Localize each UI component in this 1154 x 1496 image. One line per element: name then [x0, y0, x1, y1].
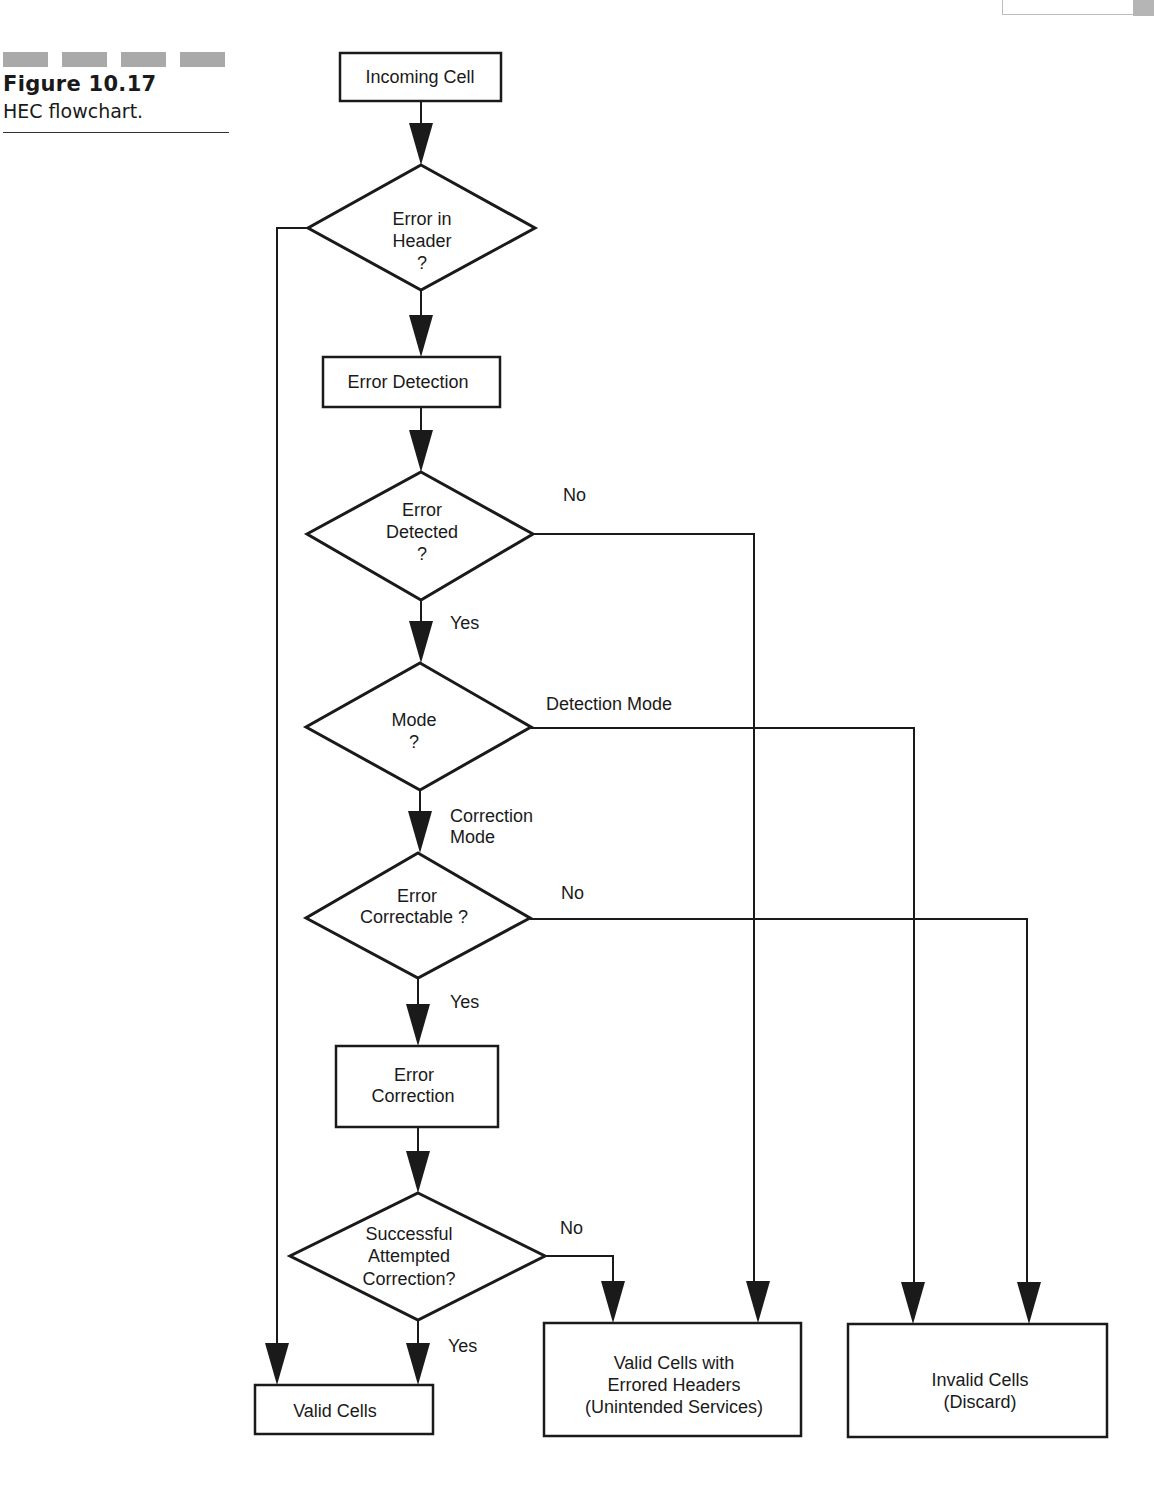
label-error-detected-yes: Yes [450, 613, 479, 633]
node-error-detection: Error Detection [323, 357, 500, 407]
svg-text:Errored Headers: Errored Headers [607, 1375, 740, 1395]
svg-text:Error Detection: Error Detection [347, 372, 468, 392]
svg-text:Correction: Correction [371, 1086, 454, 1106]
arrow-down-icon [409, 621, 433, 663]
arrow-down-icon [746, 1281, 770, 1323]
svg-text:(Unintended Services): (Unintended Services) [585, 1397, 763, 1417]
svg-text:Error in: Error in [392, 209, 451, 229]
svg-text:Mode: Mode [391, 710, 436, 730]
node-invalid-cells: Invalid Cells (Discard) [848, 1324, 1107, 1437]
label-detection-mode: Detection Mode [546, 694, 672, 714]
arrow-down-icon [406, 1151, 430, 1193]
svg-text:Incoming Cell: Incoming Cell [365, 67, 474, 87]
svg-text:Successful: Successful [365, 1224, 452, 1244]
label-correction-mode-2: Mode [450, 827, 495, 847]
arrow-down-icon [409, 315, 433, 357]
svg-text:?: ? [409, 732, 419, 752]
arrow-down-icon [409, 123, 433, 165]
arrow-down-icon [265, 1343, 289, 1385]
svg-text:Attempted: Attempted [368, 1246, 450, 1266]
node-valid-cells: Valid Cells [255, 1385, 433, 1434]
arrow-down-icon [901, 1282, 925, 1324]
node-error-detected: Error Detected ? [307, 472, 533, 600]
svg-text:Error: Error [402, 500, 442, 520]
arrow-down-icon [601, 1281, 625, 1323]
svg-text:Detected: Detected [386, 522, 458, 542]
node-valid-cells-errored-headers: Valid Cells with Errored Headers (Uninte… [544, 1323, 801, 1436]
arrow-down-icon [406, 1004, 430, 1046]
svg-text:?: ? [417, 253, 427, 273]
node-error-correctable: Error Correctable ? [306, 853, 530, 978]
svg-text:Correctable ?: Correctable ? [360, 907, 468, 927]
svg-text:Valid Cells: Valid Cells [293, 1401, 377, 1421]
label-correction-mode-1: Correction [450, 806, 533, 826]
svg-text:Error: Error [397, 886, 437, 906]
svg-text:Invalid Cells: Invalid Cells [931, 1370, 1028, 1390]
svg-text:Error: Error [394, 1065, 434, 1085]
node-mode: Mode ? [306, 663, 531, 790]
label-correctable-yes: Yes [450, 992, 479, 1012]
label-error-detected-no: No [563, 485, 586, 505]
label-successful-yes: Yes [448, 1336, 477, 1356]
arrow-down-icon [409, 430, 433, 472]
arrow-down-icon [406, 1343, 430, 1385]
arrow-down-icon [1017, 1282, 1041, 1324]
svg-text:(Discard): (Discard) [943, 1392, 1016, 1412]
node-successful-correction: Successful Attempted Correction? [290, 1193, 545, 1320]
svg-text:Valid Cells with: Valid Cells with [614, 1353, 735, 1373]
label-correctable-no: No [561, 883, 584, 903]
label-successful-no: No [560, 1218, 583, 1238]
arrow-down-icon [408, 811, 432, 853]
node-incoming-cell: Incoming Cell [340, 53, 501, 101]
svg-text:?: ? [417, 544, 427, 564]
svg-text:Header: Header [392, 231, 451, 251]
node-error-in-header: Error in Header ? [308, 165, 535, 290]
svg-text:Correction?: Correction? [362, 1269, 455, 1289]
hec-flowchart: Incoming Cell Error in Header ? Error De… [0, 0, 1154, 1496]
node-error-correction: Error Correction [336, 1046, 498, 1127]
